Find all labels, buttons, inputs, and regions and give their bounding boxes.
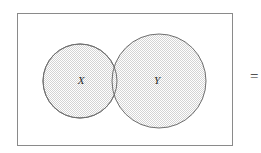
venn-diagram-figure: X Y = <box>0 0 261 153</box>
set-label-x: X <box>77 74 86 86</box>
equals-sign-annotation: = <box>250 68 258 84</box>
venn-diagram-canvas: X Y = <box>0 0 261 153</box>
